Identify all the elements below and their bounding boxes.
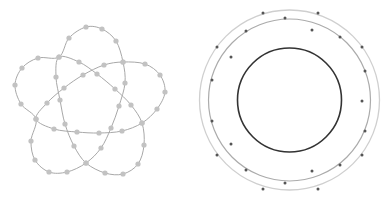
knot-loop (15, 26, 125, 173)
knot-node (71, 143, 76, 148)
ring-dot (216, 154, 219, 157)
knot-node (83, 160, 88, 165)
knot-node (44, 100, 49, 105)
knot-node (113, 38, 118, 43)
knot-node (32, 157, 37, 162)
ring-dot (284, 182, 287, 185)
knot-node (157, 72, 162, 77)
knot-node (83, 24, 88, 29)
knot-node (62, 121, 67, 126)
knot-node (18, 101, 23, 106)
knot-node (102, 170, 107, 175)
knot-node (120, 59, 125, 64)
knot-node (116, 103, 121, 108)
knot-node (135, 161, 140, 166)
knot-node (162, 89, 167, 94)
knot-node (154, 106, 159, 111)
concentric-rings-figure (200, 10, 380, 191)
ring-dot (245, 169, 248, 172)
knot-node (128, 102, 133, 107)
knot-node (120, 171, 125, 176)
knot-node (74, 129, 79, 134)
knot-node (33, 116, 38, 121)
ring-dot (211, 120, 214, 123)
knot-node (19, 65, 24, 70)
ring-dot (245, 30, 248, 33)
knot-node (99, 26, 104, 31)
ring-dot (211, 79, 214, 82)
knot-node (28, 138, 33, 143)
knot-node (66, 35, 71, 40)
diagram-canvas (0, 0, 392, 200)
knot-node (64, 169, 69, 174)
ring-dot (361, 46, 364, 49)
ring-dot (339, 36, 342, 39)
ring-dot (230, 56, 233, 59)
ring-circle (209, 19, 371, 181)
knot-node (12, 82, 17, 87)
knot-loop (56, 56, 144, 175)
ring-circle (200, 10, 380, 190)
knot-node (94, 71, 99, 76)
ring-dot (364, 130, 367, 133)
diagram-svg (0, 0, 392, 200)
ring-dot (311, 170, 314, 173)
ring-dot (339, 164, 342, 167)
ring-dot (262, 188, 265, 191)
ring-circle (238, 48, 342, 152)
ring-dot (361, 100, 364, 103)
knot-node (122, 80, 127, 85)
ring-dot (262, 12, 265, 15)
ring-dot (311, 29, 314, 32)
knot-node (141, 142, 146, 147)
ring-dot (364, 70, 367, 73)
knot-node (61, 85, 66, 90)
five-lobed-knot-figure (12, 24, 167, 176)
knot-node (98, 145, 103, 150)
knot-node (80, 72, 85, 77)
knot-node (101, 62, 106, 67)
ring-dot (317, 12, 320, 15)
knot-node (35, 55, 40, 60)
knot-node (96, 130, 101, 135)
ring-dot (361, 154, 364, 157)
ring-dot (216, 46, 219, 49)
knot-node (108, 125, 113, 130)
knot-node (46, 169, 51, 174)
ring-dot (284, 17, 287, 20)
knot-node (142, 61, 147, 66)
knot-node (139, 120, 144, 125)
knot-node (119, 128, 124, 133)
ring-dot (230, 143, 233, 146)
knot-node (112, 86, 117, 91)
knot-loop (36, 62, 165, 133)
ring-dot (317, 188, 320, 191)
knot-node (51, 126, 56, 131)
knot-node (76, 59, 81, 64)
knot-node (57, 97, 62, 102)
knot-node (56, 54, 61, 59)
knot-node (53, 74, 58, 79)
